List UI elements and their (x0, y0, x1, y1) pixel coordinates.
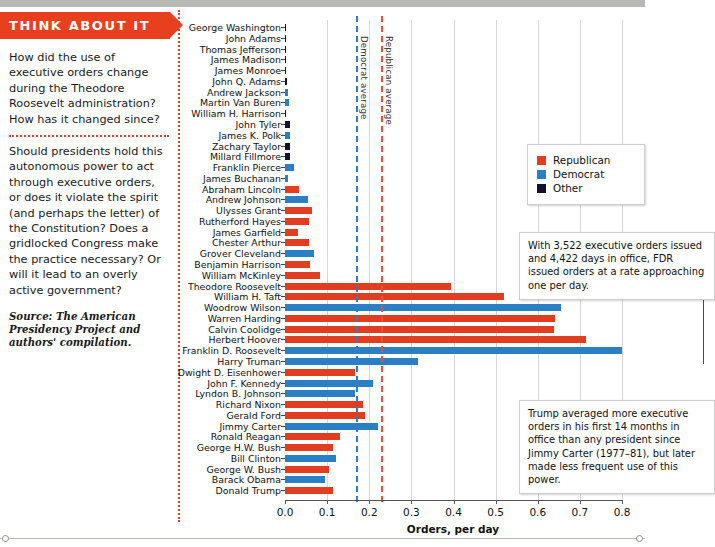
category-label: Bill Clinton (231, 454, 281, 463)
category-tick (281, 59, 285, 60)
category-tick (281, 393, 285, 394)
category-tick (281, 70, 285, 71)
bar (285, 369, 355, 376)
category-tick (281, 458, 285, 459)
category-label: Woodrow Wilson (204, 303, 281, 312)
category-tick (281, 307, 285, 308)
bar (285, 89, 288, 96)
bar (285, 56, 286, 63)
executive-orders-chart: George WashingtonJohn AdamsThomas Jeffer… (186, 12, 645, 532)
category-label: Harry Truman (217, 357, 281, 366)
category-tick (281, 447, 285, 448)
bar (285, 67, 286, 74)
panel-divider (178, 10, 180, 522)
legend-label: Republican (553, 154, 610, 166)
category-label: Warren Harding (208, 314, 281, 323)
x-tick (369, 500, 370, 504)
republican-average-line (381, 16, 383, 502)
category-tick (281, 490, 285, 491)
legend-swatch-icon (537, 156, 546, 165)
category-label: John F. Kennedy (207, 379, 281, 388)
bar (285, 24, 286, 31)
think-about-it-panel: THINK ABOUT IT How did the use of execut… (0, 12, 178, 294)
x-tick (285, 500, 286, 504)
category-label: George H.W. Bush (197, 443, 281, 452)
category-label: Richard Nixon (216, 400, 281, 409)
category-label: Donald Trump (216, 486, 281, 495)
category-tick (281, 426, 285, 427)
bar (285, 175, 288, 182)
x-tick-label: 0.0 (277, 506, 294, 518)
category-tick (281, 156, 285, 157)
bar (285, 336, 586, 343)
bar (285, 433, 340, 440)
category-tick (281, 102, 285, 103)
fdr-callout-leader (703, 292, 704, 364)
think-about-it-title: THINK ABOUT IT (0, 18, 150, 33)
category-label: Lyndon B. Johnson (195, 389, 281, 398)
category-label: Franklin D. Roosevelt (182, 346, 281, 355)
dotted-separator (9, 135, 169, 137)
plot-area: George WashingtonJohn AdamsThomas Jeffer… (285, 20, 622, 500)
bar (285, 272, 320, 279)
bar (285, 412, 365, 419)
category-tick (281, 135, 285, 136)
category-label: Andrew Jackson (207, 88, 281, 97)
x-axis-label: Orders, per day (407, 523, 499, 535)
bar (285, 35, 286, 42)
x-tick (454, 500, 455, 504)
legend-swatch-icon (537, 184, 546, 193)
category-tick (281, 253, 285, 254)
category-label: Martin Van Buren (200, 98, 281, 107)
think-question-2: Should presidents hold this autonomous p… (0, 144, 178, 298)
category-tick (281, 361, 285, 362)
category-label: James K. Polk (219, 131, 281, 140)
legend-item-dem: Democrat (537, 168, 635, 180)
category-tick (281, 415, 285, 416)
bar (285, 110, 286, 117)
category-label: George W. Bush (206, 465, 281, 474)
category-label: Ulysses Grant (216, 206, 281, 215)
fdr-callout: With 3,522 executive orders issued and 4… (519, 232, 715, 300)
x-tick (411, 500, 412, 504)
category-tick (281, 350, 285, 351)
category-label: William H. Taft (214, 292, 281, 301)
category-label: Franklin Pierce (213, 163, 281, 172)
bar (285, 293, 504, 300)
category-tick (281, 189, 285, 190)
category-tick (281, 113, 285, 114)
category-label: John Tyler (236, 120, 281, 129)
source-credit: Source: The American Presidency Project … (0, 310, 178, 349)
think-about-it-banner: THINK ABOUT IT (0, 12, 170, 39)
bar (285, 239, 309, 246)
republican-average-label: Republican average (384, 36, 394, 125)
bar (285, 444, 333, 451)
category-label: Herbert Hoover (208, 335, 281, 344)
category-label: Ronald Reagan (211, 432, 281, 441)
democrat-average-line (356, 16, 358, 502)
bar (285, 315, 555, 322)
category-tick (281, 329, 285, 330)
category-tick (281, 286, 285, 287)
category-tick (281, 296, 285, 297)
bar (285, 143, 290, 150)
bar (285, 164, 294, 171)
x-tick (580, 500, 581, 504)
category-label: James Madison (211, 55, 281, 64)
bar (285, 196, 308, 203)
category-label: Millard Fillmore (210, 152, 281, 161)
corner-dot-left (2, 535, 9, 542)
category-tick (281, 199, 285, 200)
category-tick (281, 49, 285, 50)
legend-item-rep: Republican (537, 154, 635, 166)
bar (285, 423, 378, 430)
bar (285, 153, 290, 160)
category-tick (281, 275, 285, 276)
category-label: Benjamin Harrison (194, 260, 281, 269)
category-label: James Buchanan (203, 174, 281, 183)
bar (285, 304, 561, 311)
category-tick (281, 242, 285, 243)
bar (285, 218, 309, 225)
category-label: Gerald Ford (226, 411, 281, 420)
x-tick-label: 0.2 (361, 506, 378, 518)
